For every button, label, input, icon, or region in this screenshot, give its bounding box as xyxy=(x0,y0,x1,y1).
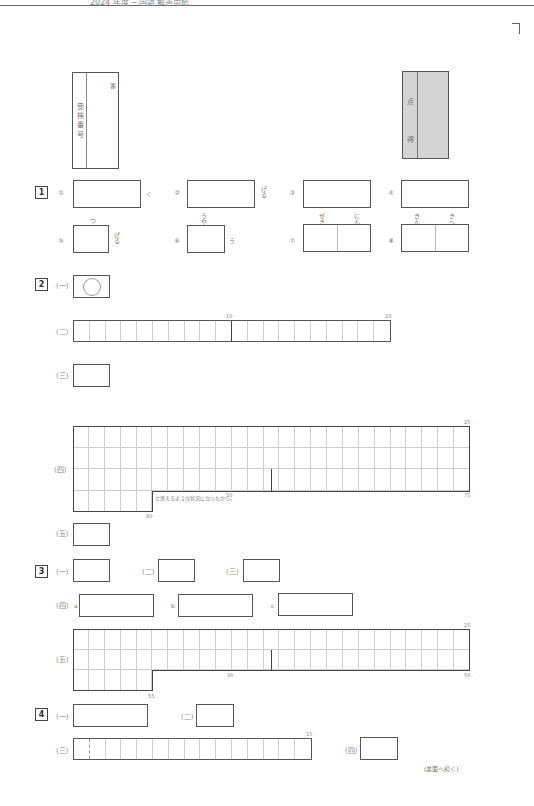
grid-cell[interactable] xyxy=(105,469,121,491)
q2-2-answer-grid[interactable] xyxy=(73,320,391,342)
grid-cell[interactable] xyxy=(343,321,359,341)
grid-cell[interactable] xyxy=(295,650,311,671)
grid-cell[interactable] xyxy=(248,321,264,341)
q1-4-answer[interactable] xyxy=(401,180,469,208)
grid-cell[interactable] xyxy=(343,469,359,491)
grid-cell[interactable] xyxy=(200,629,216,650)
grid-cell[interactable] xyxy=(216,448,232,470)
grid-cell[interactable] xyxy=(74,739,90,759)
grid-cell[interactable] xyxy=(295,739,311,759)
grid-cell[interactable] xyxy=(121,670,137,691)
grid-cell[interactable] xyxy=(422,448,438,470)
grid-cell[interactable] xyxy=(73,469,89,491)
grid-cell[interactable] xyxy=(327,650,343,671)
grid-cell[interactable] xyxy=(422,650,438,671)
q2-1-answer[interactable] xyxy=(73,275,110,298)
grid-cell[interactable] xyxy=(311,650,327,671)
grid-cell[interactable] xyxy=(295,448,311,470)
grid-cell[interactable] xyxy=(391,650,407,671)
grid-cell[interactable] xyxy=(279,448,295,470)
grid-cell[interactable] xyxy=(137,469,153,491)
grid-cell[interactable] xyxy=(454,650,470,671)
grid-cell[interactable] xyxy=(168,650,184,671)
grid-cell[interactable] xyxy=(264,426,280,448)
grid-cell[interactable] xyxy=(232,448,248,470)
grid-cell[interactable] xyxy=(248,469,264,491)
grid-cell[interactable] xyxy=(121,491,137,513)
q3-3-answer[interactable] xyxy=(243,559,280,582)
grid-cell[interactable] xyxy=(152,426,168,448)
grid-cell[interactable] xyxy=(90,321,106,341)
grid-cell[interactable] xyxy=(327,321,343,341)
grid-cell[interactable] xyxy=(184,448,200,470)
q1-2-answer[interactable] xyxy=(187,180,255,208)
grid-cell[interactable] xyxy=(89,491,105,513)
q1-1-answer[interactable] xyxy=(73,180,141,208)
grid-cell[interactable] xyxy=(279,629,295,650)
grid-cell[interactable] xyxy=(89,650,105,671)
grid-cell[interactable] xyxy=(375,448,391,470)
q1-5-answer[interactable] xyxy=(73,225,109,253)
grid-cell[interactable] xyxy=(343,426,359,448)
grid-cell[interactable] xyxy=(137,321,153,341)
grid-cell[interactable] xyxy=(327,426,343,448)
grid-cell[interactable] xyxy=(73,650,89,671)
grid-cell[interactable] xyxy=(295,426,311,448)
q2-5-answer[interactable] xyxy=(73,523,110,546)
grid-cell[interactable] xyxy=(232,650,248,671)
grid-cell[interactable] xyxy=(169,321,185,341)
grid-cell[interactable] xyxy=(454,426,470,448)
q2-3-answer[interactable] xyxy=(73,364,110,387)
grid-cell[interactable] xyxy=(168,448,184,470)
grid-cell[interactable] xyxy=(422,469,438,491)
grid-cell[interactable] xyxy=(121,650,137,671)
grid-cell[interactable] xyxy=(73,448,89,470)
grid-cell[interactable] xyxy=(232,629,248,650)
grid-cell[interactable] xyxy=(185,739,201,759)
grid-cell[interactable] xyxy=(216,321,232,341)
q1-8-answer[interactable] xyxy=(401,224,469,252)
grid-cell[interactable] xyxy=(137,426,153,448)
grid-cell[interactable] xyxy=(74,321,90,341)
grid-cell[interactable] xyxy=(73,629,89,650)
grid-cell[interactable] xyxy=(327,448,343,470)
grid-cell[interactable] xyxy=(406,469,422,491)
grid-cell[interactable] xyxy=(375,469,391,491)
grid-cell[interactable] xyxy=(279,321,295,341)
grid-cell[interactable] xyxy=(184,426,200,448)
grid-cell[interactable] xyxy=(152,629,168,650)
q1-6-answer[interactable] xyxy=(187,225,225,253)
grid-cell[interactable] xyxy=(422,426,438,448)
grid-cell[interactable] xyxy=(152,448,168,470)
grid-cell[interactable] xyxy=(106,321,122,341)
grid-cell[interactable] xyxy=(168,426,184,448)
grid-cell[interactable] xyxy=(248,448,264,470)
q3-1-answer[interactable] xyxy=(73,559,110,582)
grid-cell[interactable] xyxy=(73,670,89,691)
grid-cell[interactable] xyxy=(279,739,295,759)
grid-cell[interactable] xyxy=(121,739,137,759)
grid-cell[interactable] xyxy=(105,491,121,513)
grid-cell[interactable] xyxy=(73,491,89,513)
grid-cell[interactable] xyxy=(105,426,121,448)
grid-cell[interactable] xyxy=(406,650,422,671)
q1-7-answer[interactable] xyxy=(303,224,371,252)
grid-cell[interactable] xyxy=(200,448,216,470)
grid-cell[interactable] xyxy=(200,469,216,491)
grid-cell[interactable] xyxy=(438,448,454,470)
grid-cell[interactable] xyxy=(184,469,200,491)
grid-cell[interactable] xyxy=(105,448,121,470)
grid-cell[interactable] xyxy=(264,448,280,470)
grid-cell[interactable] xyxy=(295,321,311,341)
grid-cell[interactable] xyxy=(311,448,327,470)
grid-cell[interactable] xyxy=(153,321,169,341)
grid-cell[interactable] xyxy=(121,448,137,470)
grid-cell[interactable] xyxy=(311,469,327,491)
grid-cell[interactable] xyxy=(311,426,327,448)
grid-cell[interactable] xyxy=(359,469,375,491)
grid-cell[interactable] xyxy=(216,650,232,671)
grid-cell[interactable] xyxy=(89,448,105,470)
grid-cell[interactable] xyxy=(375,629,391,650)
grid-cell[interactable] xyxy=(327,469,343,491)
grid-cell[interactable] xyxy=(375,650,391,671)
